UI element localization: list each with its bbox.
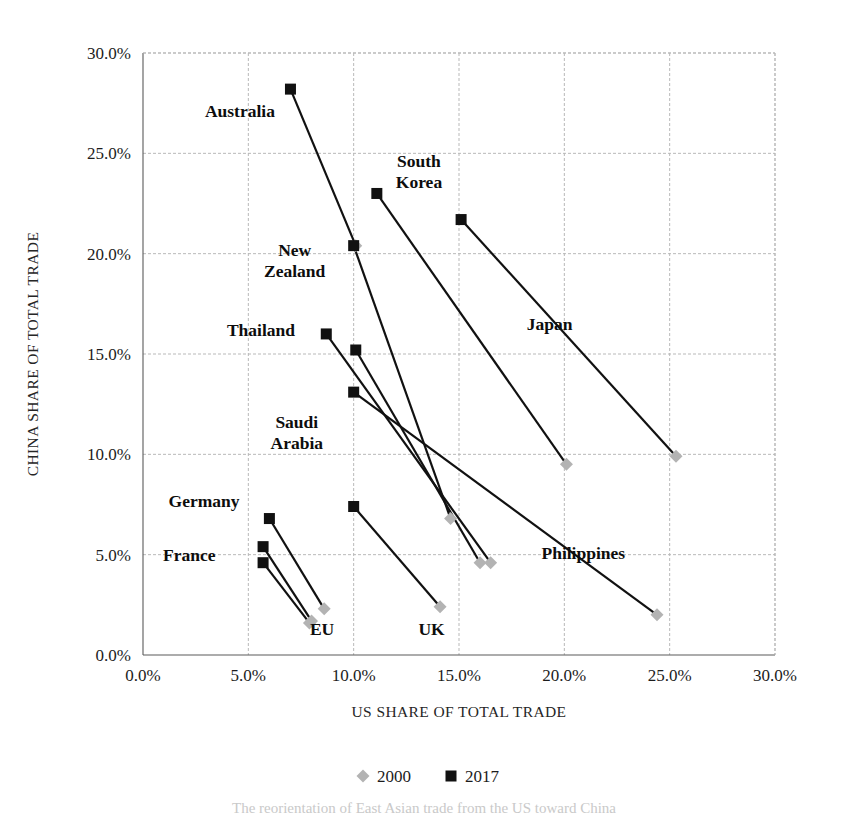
y-tick-label: 25.0%	[87, 144, 131, 163]
legend-label-2017: 2017	[465, 767, 500, 786]
marker-2017	[350, 344, 361, 355]
marker-2017	[456, 214, 467, 225]
y-tick-label: 10.0%	[87, 445, 131, 464]
point-label-japan: Japan	[527, 314, 573, 334]
marker-2017	[258, 541, 269, 552]
x-tick-label: 20.0%	[542, 666, 586, 685]
legend-marker-2000	[357, 770, 370, 783]
marker-2017	[321, 328, 332, 339]
legend-label-2000: 2000	[377, 767, 411, 786]
marker-2017	[285, 84, 296, 95]
legend-marker-2017	[446, 771, 457, 782]
x-tick-label: 5.0%	[231, 666, 266, 685]
point-label-thailand: Thailand	[227, 320, 295, 340]
marker-2000	[560, 458, 573, 471]
marker-2000	[318, 602, 331, 615]
y-tick-label: 20.0%	[87, 245, 131, 264]
y-axis-title: CHINA SHARE OF TOTAL TRADE	[24, 232, 41, 477]
x-tick-label: 15.0%	[437, 666, 481, 685]
legend: 20002017	[357, 767, 500, 786]
scatter-chart-figure: 0.0%5.0%10.0%15.0%20.0%25.0%30.0% 0.0%5.…	[0, 0, 848, 820]
connector-line	[354, 507, 440, 607]
marker-2017	[348, 387, 359, 398]
marker-2000	[474, 556, 487, 569]
point-label-saudi-arabia: SaudiArabia	[271, 412, 324, 453]
connector-line	[354, 246, 451, 519]
point-label-germany: Germany	[169, 491, 240, 511]
x-tick-label: 30.0%	[753, 666, 797, 685]
point-label-eu: EU	[310, 619, 335, 639]
figure-caption: The reorientation of East Asian trade fr…	[0, 800, 848, 817]
figure-caption-strip: The reorientation of East Asian trade fr…	[0, 798, 848, 820]
point-label-uk: UK	[418, 619, 445, 639]
chart-canvas: 0.0%5.0%10.0%15.0%20.0%25.0%30.0% 0.0%5.…	[0, 0, 848, 820]
x-tick-labels-group: 0.0%5.0%10.0%15.0%20.0%25.0%30.0%	[125, 666, 797, 685]
connector-line	[290, 89, 355, 246]
marker-2017	[258, 557, 269, 568]
connector-line	[263, 547, 311, 621]
connector-line	[326, 334, 490, 563]
point-labels-group: AustraliaSouthKoreaJapanNewZealandThaila…	[163, 101, 625, 639]
connector-line	[269, 519, 324, 609]
gridlines-group	[143, 53, 775, 655]
marker-2017	[348, 240, 359, 251]
point-label-france: France	[163, 545, 216, 565]
y-tick-label: 0.0%	[96, 646, 131, 665]
connector-line	[461, 220, 676, 457]
point-label-australia: Australia	[205, 101, 275, 121]
marker-2017	[371, 188, 382, 199]
marker-2017	[348, 501, 359, 512]
x-axis-title: US SHARE OF TOTAL TRADE	[352, 703, 567, 720]
x-tick-label: 0.0%	[125, 666, 160, 685]
y-tick-labels-group: 0.0%5.0%10.0%15.0%20.0%25.0%30.0%	[87, 44, 131, 665]
point-label-philippines: Philippines	[541, 543, 625, 563]
point-label-south-korea: SouthKorea	[396, 151, 443, 192]
y-tick-label: 5.0%	[96, 546, 131, 565]
point-label-new-zealand: NewZealand	[264, 240, 326, 281]
y-tick-label: 15.0%	[87, 345, 131, 364]
connector-line	[354, 392, 657, 615]
x-tick-label: 25.0%	[648, 666, 692, 685]
marker-2017	[264, 513, 275, 524]
y-tick-label: 30.0%	[87, 44, 131, 63]
x-tick-label: 10.0%	[332, 666, 376, 685]
